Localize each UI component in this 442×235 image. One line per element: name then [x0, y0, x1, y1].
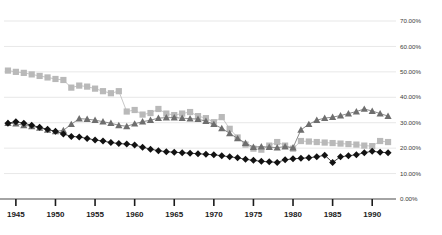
- data-point-triangle-1992: [384, 113, 391, 119]
- data-point-square-1982: [306, 138, 312, 144]
- data-point-square-1944: [5, 67, 11, 73]
- data-point-triangle-1976: [258, 143, 265, 149]
- data-point-diamond-1959: [123, 141, 130, 148]
- data-point-diamond-1975: [250, 157, 257, 164]
- y-tick-label-20: 20.00%: [400, 144, 421, 151]
- data-point-square-1949: [44, 74, 50, 80]
- line-chart: 0.00%10.00%20.00%30.00%40.00%50.00%60.00…: [0, 0, 442, 235]
- data-point-triangle-1989: [361, 105, 368, 111]
- data-point-diamond-1957: [107, 139, 114, 146]
- data-point-square-1992: [385, 139, 391, 145]
- x-tick-label-1960: 1960: [126, 210, 144, 219]
- data-point-diamond-1992: [385, 149, 392, 156]
- x-tick-label-1990: 1990: [363, 210, 381, 219]
- data-point-square-1987: [345, 141, 351, 147]
- data-point-triangle-1991: [377, 110, 384, 116]
- data-point-square-1953: [76, 82, 82, 88]
- data-point-diamond-1987: [345, 152, 352, 159]
- data-point-diamond-1980: [290, 155, 297, 162]
- data-point-diamond-1981: [297, 155, 304, 162]
- data-point-square-1960: [132, 107, 138, 113]
- data-point-diamond-1956: [99, 138, 106, 145]
- data-point-diamond-1971: [218, 152, 225, 159]
- y-tick-label-50: 50.00%: [400, 68, 421, 75]
- data-point-square-1952: [68, 85, 74, 91]
- series-squares: [5, 67, 391, 152]
- data-point-square-1950: [52, 76, 58, 82]
- x-tick-label-1985: 1985: [324, 210, 342, 219]
- data-point-square-1989: [361, 143, 367, 149]
- data-point-diamond-1955: [92, 137, 99, 144]
- x-tick-label-1970: 1970: [205, 210, 223, 219]
- x-tick-label-1965: 1965: [165, 210, 183, 219]
- x-axis-labels-group: 1945195019551960196519701975198019851990: [7, 210, 382, 219]
- gridlines-group: [4, 21, 396, 174]
- x-tick-label-1975: 1975: [245, 210, 263, 219]
- x-tick-label-1955: 1955: [86, 210, 104, 219]
- data-point-diamond-1972: [226, 153, 233, 160]
- data-point-square-1958: [116, 88, 122, 94]
- data-point-triangle-1971: [218, 125, 225, 131]
- data-point-triangle-1988: [353, 108, 360, 114]
- data-point-square-1962: [147, 110, 153, 116]
- data-point-triangle-1981: [297, 126, 304, 132]
- data-point-triangle-1982: [305, 121, 312, 127]
- data-point-square-1984: [322, 139, 328, 145]
- data-point-square-1959: [124, 108, 130, 114]
- chart-container: 0.00%10.00%20.00%30.00%40.00%50.00%60.00…: [0, 0, 442, 235]
- data-point-diamond-1991: [377, 149, 384, 156]
- data-point-diamond-1979: [282, 156, 289, 163]
- y-tick-label-60: 60.00%: [400, 43, 421, 50]
- y-tick-label-30: 30.00%: [400, 119, 421, 126]
- data-point-diamond-1954: [84, 135, 91, 142]
- data-point-square-1981: [298, 138, 304, 144]
- data-point-diamond-1982: [305, 154, 312, 161]
- data-point-diamond-1967: [187, 150, 194, 157]
- data-point-square-1955: [92, 86, 98, 92]
- data-point-diamond-1989: [361, 149, 368, 156]
- data-point-square-1945: [13, 69, 19, 75]
- data-point-diamond-1965: [171, 149, 178, 156]
- data-point-diamond-1988: [353, 151, 360, 158]
- data-point-diamond-1983: [313, 153, 320, 160]
- data-point-square-1967: [187, 109, 193, 115]
- data-point-triangle-1953: [76, 115, 83, 121]
- data-point-diamond-1961: [139, 144, 146, 151]
- data-point-square-1961: [139, 111, 145, 117]
- data-point-diamond-1978: [274, 159, 281, 166]
- data-point-square-1986: [337, 140, 343, 146]
- x-tick-label-1980: 1980: [284, 210, 302, 219]
- data-point-square-1985: [330, 140, 336, 146]
- data-point-diamond-1973: [234, 154, 241, 161]
- data-point-diamond-1969: [202, 151, 209, 158]
- data-point-diamond-1986: [337, 153, 344, 160]
- data-point-square-1948: [37, 73, 43, 79]
- data-point-square-1946: [21, 70, 27, 76]
- data-point-square-1988: [353, 141, 359, 147]
- data-point-diamond-1970: [210, 151, 217, 158]
- data-point-diamond-1976: [258, 158, 265, 165]
- y-axis-labels-group: 0.00%10.00%20.00%30.00%40.00%50.00%60.00…: [400, 17, 421, 202]
- data-point-diamond-1977: [266, 158, 273, 165]
- data-point-diamond-1960: [131, 142, 138, 149]
- data-point-square-1983: [314, 139, 320, 145]
- y-tick-label-0: 0.00%: [400, 195, 418, 202]
- data-point-square-1951: [60, 77, 66, 83]
- data-point-square-1971: [219, 114, 225, 120]
- data-point-square-1957: [108, 90, 114, 96]
- y-tick-label-40: 40.00%: [400, 93, 421, 100]
- data-point-diamond-1952: [68, 133, 75, 140]
- data-point-diamond-1964: [163, 148, 170, 155]
- data-point-diamond-1974: [242, 156, 249, 163]
- data-point-square-1991: [377, 138, 383, 144]
- data-series-group: [4, 67, 391, 165]
- x-axis-group: [0, 199, 396, 206]
- data-point-diamond-1962: [147, 146, 154, 153]
- data-point-diamond-1966: [179, 149, 186, 156]
- data-point-triangle-1952: [68, 121, 75, 127]
- data-point-square-1947: [29, 71, 35, 77]
- x-tick-label-1945: 1945: [7, 210, 25, 219]
- y-tick-label-10: 10.00%: [400, 170, 421, 177]
- data-point-square-1963: [155, 106, 161, 112]
- x-tick-label-1950: 1950: [47, 210, 65, 219]
